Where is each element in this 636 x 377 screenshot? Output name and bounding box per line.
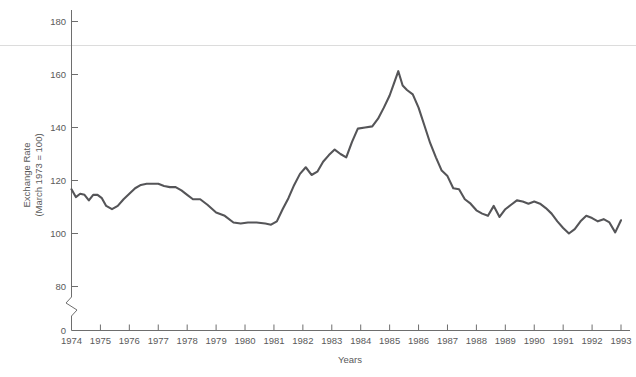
y-tick-marks	[72, 22, 79, 287]
exchange-rate-line	[72, 71, 622, 233]
y-tick-labels: 180 160 140 120 100 80 0	[50, 16, 66, 336]
y-tick-label-100: 100	[50, 228, 66, 239]
y-tick-label-140: 140	[50, 122, 66, 133]
x-tick-label: 1988	[466, 335, 487, 346]
x-tick-label: 1989	[495, 335, 516, 346]
x-axis-title: Years	[338, 354, 362, 365]
x-tick-labels: 1974197519761977197819791980198119821983…	[61, 335, 632, 346]
x-tick-label: 1984	[350, 335, 371, 346]
x-tick-label: 1975	[90, 335, 111, 346]
x-tick-label: 1987	[437, 335, 458, 346]
x-tick-label: 1980	[234, 335, 255, 346]
x-tick-label: 1977	[148, 335, 169, 346]
x-tick-label: 1991	[553, 335, 574, 346]
y-tick-label-80: 80	[55, 281, 66, 292]
x-tick-label: 1985	[379, 335, 400, 346]
y-axis-title-line2: (March 1973 = 100)	[33, 133, 44, 216]
x-tick-label: 1974	[61, 335, 82, 346]
y-axis-title-line1: Exchange Rate	[21, 143, 32, 208]
x-tick-label: 1982	[292, 335, 313, 346]
y-tick-label-160: 160	[50, 69, 66, 80]
y-tick-label-180: 180	[50, 16, 66, 27]
x-tick-label: 1990	[524, 335, 545, 346]
chart-svg: 180 160 140 120 100 80 0 197419751976197…	[0, 0, 636, 377]
x-tick-label: 1983	[321, 335, 342, 346]
x-tick-label: 1993	[610, 335, 631, 346]
x-tick-marks	[72, 325, 622, 331]
x-tick-label: 1978	[177, 335, 198, 346]
y-axis-break-mark	[66, 292, 77, 330]
x-tick-label: 1976	[119, 335, 140, 346]
x-tick-label: 1981	[263, 335, 284, 346]
x-tick-label: 1986	[408, 335, 429, 346]
exchange-rate-chart: 180 160 140 120 100 80 0 197419751976197…	[0, 0, 636, 377]
x-tick-label: 1979	[206, 335, 227, 346]
x-tick-label: 1992	[582, 335, 603, 346]
y-tick-label-120: 120	[50, 175, 66, 186]
